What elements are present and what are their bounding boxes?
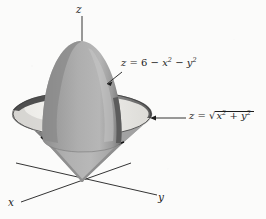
paraboloid-eq-equals: = bbox=[129, 57, 137, 68]
y-axis-label: y bbox=[158, 192, 164, 203]
paraboloid-eq-exp-y: 2 bbox=[192, 56, 196, 64]
z-axis-label: z bbox=[76, 4, 82, 15]
paraboloid-eq-minus1: − bbox=[151, 57, 159, 68]
paraboloid-surface bbox=[42, 41, 121, 152]
x-axis-label: x bbox=[8, 197, 14, 208]
cone-eq-plus: + bbox=[229, 110, 237, 121]
cone-eq-equals: = bbox=[197, 110, 205, 121]
paraboloid-equation-label: z = 6 − x2 − y2 bbox=[121, 57, 197, 68]
square-root-icon: √x2 + y2 bbox=[209, 110, 254, 121]
cone-arrow bbox=[150, 116, 186, 121]
cone-equation-label: z = √x2 + y2 bbox=[189, 110, 254, 121]
paraboloid-eq-minus2: − bbox=[175, 57, 183, 68]
